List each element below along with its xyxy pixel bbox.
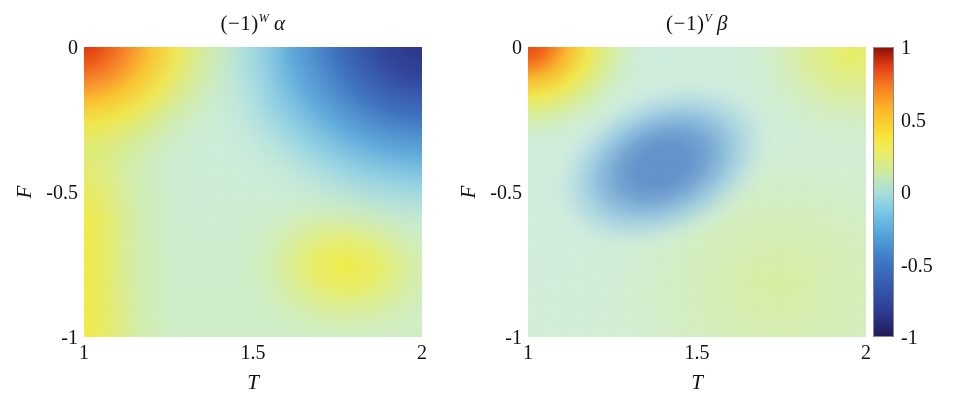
heatmap-canvas-alpha — [84, 47, 422, 337]
yaxis-label-alpha: F — [12, 186, 37, 199]
panel-title-beta-prefix: (−1) — [666, 11, 704, 35]
xtick-beta-2: 2 — [861, 342, 871, 362]
heatmap-noise-alpha — [84, 47, 422, 337]
xtick-alpha-0: 1 — [79, 342, 89, 362]
xtick-beta-0: 1 — [523, 342, 533, 362]
figure: (−1)W α — [0, 0, 969, 412]
heatmap-canvas-beta — [528, 47, 866, 337]
colorbar-tick-3: -0.5 — [901, 255, 933, 275]
panel-title-alpha: (−1)W α — [84, 11, 422, 36]
colorbar-tick-2: 0 — [901, 182, 911, 202]
ytick-alpha-0: 0 — [68, 37, 78, 57]
colorbar-tick-4: -1 — [901, 327, 918, 347]
xaxis-label-alpha: T — [247, 370, 259, 395]
xtick-beta-1: 1.5 — [685, 342, 710, 362]
heatmap-noise-beta — [528, 47, 866, 337]
panel-title-beta-symbol: β — [717, 11, 728, 35]
ytick-beta-2: -1 — [505, 327, 522, 347]
xtick-alpha-1: 1.5 — [241, 342, 266, 362]
ytick-alpha-1: -0.5 — [46, 182, 78, 202]
xtick-alpha-2: 2 — [417, 342, 427, 362]
panel-title-alpha-symbol: α — [274, 11, 286, 35]
panel-title-alpha-exponent: W — [259, 11, 270, 25]
heatmap-panel-alpha: (−1)W α — [84, 47, 422, 337]
panel-title-beta-exponent: V — [704, 11, 712, 25]
ytick-alpha-2: -1 — [61, 327, 78, 347]
xaxis-label-beta: T — [691, 370, 703, 395]
colorbar-tick-0: 1 — [901, 37, 911, 57]
panel-title-alpha-prefix: (−1) — [220, 11, 258, 35]
panel-title-beta: (−1)V β — [528, 11, 866, 36]
ytick-beta-1: -0.5 — [490, 182, 522, 202]
heatmap-panel-beta: (−1)V β — [528, 47, 866, 337]
colorbar-gradient — [873, 47, 894, 337]
colorbar: 1 0.5 0 -0.5 -1 — [873, 47, 894, 337]
ytick-beta-0: 0 — [512, 37, 522, 57]
colorbar-tick-1: 0.5 — [901, 110, 926, 130]
yaxis-label-beta: F — [456, 186, 481, 199]
